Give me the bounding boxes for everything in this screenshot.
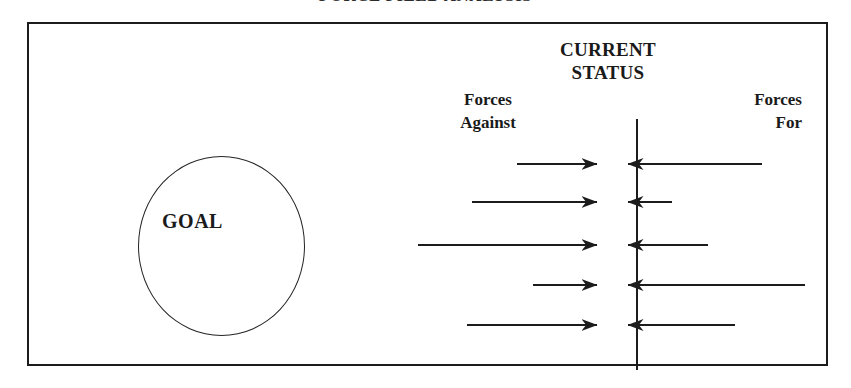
forces-against-line2: Against <box>460 113 516 132</box>
forces-against-line1: Forces <box>464 90 512 109</box>
current-status-heading-line2: STATUS <box>508 61 708 84</box>
forces-for-label: Forces For <box>688 88 802 134</box>
goal-label: GOAL <box>109 210 276 233</box>
forces-for-line1: Forces <box>754 90 802 109</box>
current-status-heading: CURRENT STATUS <box>508 38 708 84</box>
forces-against-label: Forces Against <box>428 88 548 134</box>
arrows-layer <box>0 0 851 388</box>
forces-for-line2: For <box>776 113 802 132</box>
force-field-analysis-figure: FORCE FIELD ANALYSIS GOAL CURRENT STATUS… <box>0 0 851 388</box>
current-status-heading-line1: CURRENT <box>560 39 656 60</box>
